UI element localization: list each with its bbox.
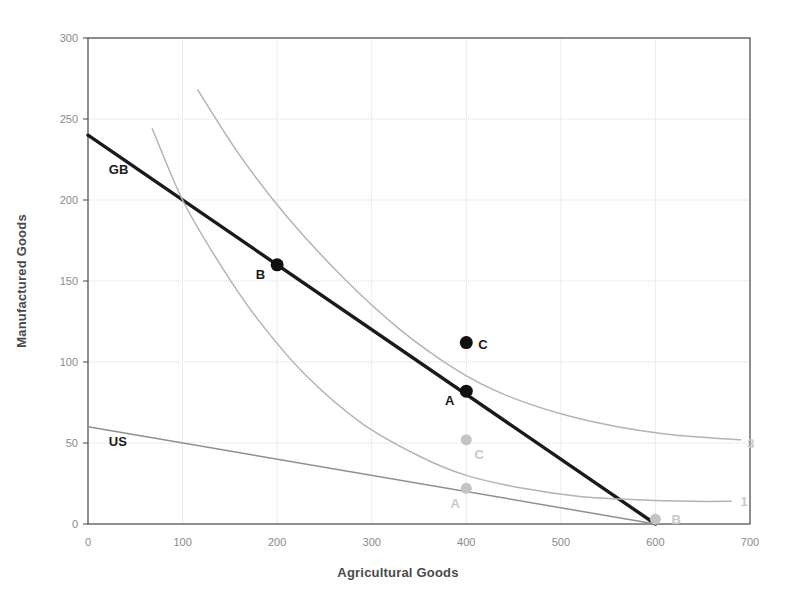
- data-point-b: [271, 258, 284, 271]
- x-tick-label: 400: [457, 536, 475, 548]
- data-point-light-a: [461, 483, 472, 494]
- data-point-light-label-a: A: [451, 496, 461, 511]
- data-point-light-label-b: B: [671, 512, 680, 527]
- chart-background: [0, 0, 796, 601]
- y-tick-label: 300: [60, 32, 78, 44]
- y-tick-label: 0: [72, 518, 78, 530]
- data-point-label-c: C: [478, 337, 488, 352]
- y-tick-label: 150: [60, 275, 78, 287]
- x-tick-label: 300: [363, 536, 381, 548]
- curve-end-label-3: 3: [747, 436, 754, 451]
- x-tick-label: 600: [646, 536, 664, 548]
- curve-end-label-1: 1: [741, 494, 748, 509]
- y-tick-label: 250: [60, 113, 78, 125]
- x-tick-label: 0: [85, 536, 91, 548]
- line-label-us: US: [109, 434, 127, 449]
- x-tick-label: 200: [268, 536, 286, 548]
- y-tick-label: 100: [60, 356, 78, 368]
- data-point-light-b: [650, 514, 661, 525]
- y-tick-label: 50: [66, 437, 78, 449]
- y-tick-label: 200: [60, 194, 78, 206]
- y-axis-title: Manufactured Goods: [14, 214, 29, 348]
- chart-plot: 0100200300400500600700 05010015020025030…: [0, 0, 796, 601]
- data-point-label-a: A: [445, 393, 455, 408]
- x-tick-label: 100: [173, 536, 191, 548]
- line-label-gb: GB: [109, 162, 129, 177]
- data-point-light-label-c: C: [475, 447, 485, 462]
- data-point-label-b: B: [256, 267, 265, 282]
- data-point-a: [460, 385, 473, 398]
- x-axis-title: Agricultural Goods: [337, 565, 458, 580]
- x-tick-label: 500: [552, 536, 570, 548]
- chart-container: 0100200300400500600700 05010015020025030…: [0, 0, 796, 601]
- data-point-c: [460, 336, 473, 349]
- data-point-light-c: [461, 434, 472, 445]
- x-tick-label: 700: [741, 536, 759, 548]
